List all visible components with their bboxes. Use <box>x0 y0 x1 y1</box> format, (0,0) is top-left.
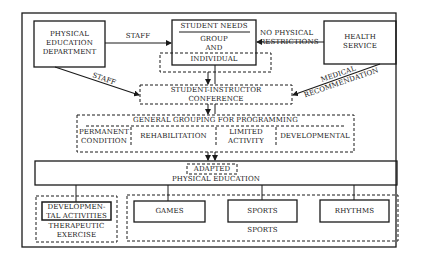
student-needs-title: STUDENT NEEDS <box>172 22 256 31</box>
limited-line-2: ACTIVITY <box>216 137 276 146</box>
staff-edge-label: STAFF <box>118 32 158 41</box>
health-line-1: HEALTH <box>324 33 396 42</box>
adapted-tag-label: ADAPTED <box>187 165 237 174</box>
developmental-activities-label: DEVELOPMEN- TAL ACTIVITIES <box>42 203 111 221</box>
needs-line-2: AND <box>172 44 256 53</box>
student-needs-label: GROUP AND <box>172 35 256 53</box>
conference-line-1: STUDENT-INSTRUCTOR <box>140 86 292 95</box>
health-service-label: HEALTH SERVICE <box>324 33 396 51</box>
limited-line-1: LIMITED <box>216 128 276 137</box>
therapeutic-line-1: THERAPEUTIC <box>36 222 117 231</box>
category-permanent-condition: PERMANENT CONDITION <box>77 128 131 146</box>
pe-line-3: DEPARTMENT <box>34 48 105 57</box>
general-grouping-title: GENERAL GROUPING FOR PROGRAMMING <box>77 116 354 125</box>
pe-department-label: PHYSICAL EDUCATION DEPARTMENT <box>34 30 105 57</box>
no-physical-line-2: RESTRICTIONS <box>260 38 322 47</box>
needs-line-1: GROUP <box>172 35 256 44</box>
conference-line-2: CONFERENCE <box>140 95 292 104</box>
permanent-line-1: PERMANENT <box>77 128 131 137</box>
pe-line-1: PHYSICAL <box>34 30 105 39</box>
dev-line-1: DEVELOPMEN- <box>42 203 111 212</box>
category-developmental: DEVELOPMENTAL <box>276 132 354 141</box>
therapeutic-exercise-label: THERAPEUTIC EXERCISE <box>36 222 117 240</box>
no-physical-edge-label: NO PHYSICAL RESTRICTIONS <box>260 29 322 47</box>
adapted-pe-label: PHYSICAL EDUCATION <box>140 175 292 184</box>
pe-line-2: EDUCATION <box>34 39 105 48</box>
category-rehabilitation: REHABILITATION <box>131 132 216 141</box>
games-label: GAMES <box>134 207 205 216</box>
individual-label: INDIVIDUAL <box>172 55 256 64</box>
dev-line-2: TAL ACTIVITIES <box>42 212 111 221</box>
no-physical-line-1: NO PHYSICAL <box>260 29 322 38</box>
sports-label: SPORTS <box>228 207 297 216</box>
permanent-line-2: CONDITION <box>77 137 131 146</box>
health-line-2: SERVICE <box>324 42 396 51</box>
sports-group-caption: SPORTS <box>228 226 297 235</box>
rhythms-label: RHYTHMS <box>320 207 389 216</box>
conference-label: STUDENT-INSTRUCTOR CONFERENCE <box>140 86 292 104</box>
category-limited-activity: LIMITED ACTIVITY <box>216 128 276 146</box>
therapeutic-line-2: EXERCISE <box>36 231 117 240</box>
